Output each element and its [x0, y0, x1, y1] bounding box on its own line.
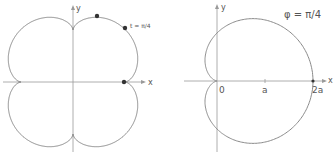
left-point-pi4 — [123, 26, 127, 30]
left-y-label: y — [76, 4, 81, 13]
left-x-arrow-icon — [141, 80, 146, 84]
diagram-canvas: x y t = π/4 x y 0 a 2a φ = π/4 — [0, 0, 336, 157]
tick-label-0: 0 — [219, 85, 225, 95]
left-y-arrow-icon — [71, 5, 75, 10]
right-annotation: φ = π/4 — [284, 9, 321, 20]
tick-label-a: a — [262, 85, 268, 95]
left-point-top — [95, 14, 99, 18]
tick-label-2a: 2a — [312, 85, 323, 95]
left-annotation: t = π/4 — [130, 22, 151, 29]
right-point-2a — [311, 79, 314, 82]
right-y-label: y — [221, 3, 226, 12]
left-x-label: x — [148, 78, 153, 87]
right-x-arrow-icon — [322, 79, 327, 83]
left-figure: x y t = π/4 — [3, 4, 153, 152]
right-figure: x y 0 a 2a φ = π/4 — [184, 3, 333, 152]
left-point-x — [122, 80, 126, 84]
right-x-label: x — [328, 76, 333, 85]
right-y-arrow-icon — [215, 4, 219, 9]
